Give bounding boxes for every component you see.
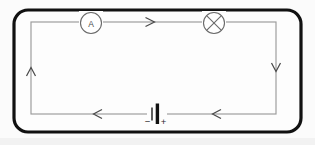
lamp-symbol [204, 13, 225, 34]
ammeter-symbol: A [81, 13, 102, 34]
ammeter-label: A [88, 19, 94, 29]
circuit-diagram-canvas: A − + [0, 0, 315, 145]
page-shade [0, 138, 315, 145]
circuit-diagram-svg: A − + [0, 0, 315, 145]
battery-positive-label: + [161, 116, 167, 127]
battery-negative-label: − [145, 116, 151, 127]
